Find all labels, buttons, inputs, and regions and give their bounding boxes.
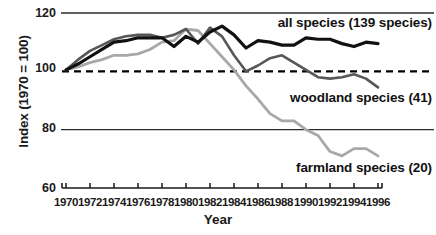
chart-container: Index (1970 = 100) Year 120 100 80 60 19… [0, 0, 436, 235]
y-tick-label-60: 60 [22, 181, 56, 195]
series-label-all-species: all species (139 species) [278, 15, 432, 30]
x-tick-label-1996: 1996 [361, 196, 395, 208]
x-axis-title: Year [0, 212, 436, 227]
y-tick-label-120: 120 [22, 6, 56, 20]
series-line-all [66, 26, 378, 70]
series-label-farmland-species: farmland species (20) [296, 160, 432, 175]
y-tick-label-80: 80 [22, 121, 56, 135]
series-label-woodland-species: woodland species (41) [290, 90, 432, 105]
y-axis-title: Index (1970 = 100) [16, 7, 31, 177]
y-tick-label-100: 100 [22, 61, 56, 75]
